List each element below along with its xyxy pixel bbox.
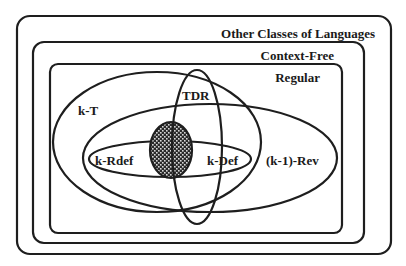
regular-label: Regular: [275, 70, 320, 85]
other-classes-label: Other Classes of Languages: [221, 26, 375, 41]
k-t-label: k-T: [78, 103, 99, 118]
tdr-label: TDR: [182, 88, 210, 103]
context-free-label: Context-Free: [261, 48, 335, 63]
k-def-label: k-Def: [207, 153, 239, 168]
language-classes-diagram: Other Classes of Languages Context-Free …: [0, 0, 406, 266]
k-rdef-label: k-Rdef: [95, 153, 134, 168]
k-1-rev-label: (k-1)-Rev: [266, 153, 319, 168]
other-classes-box: [17, 16, 391, 254]
